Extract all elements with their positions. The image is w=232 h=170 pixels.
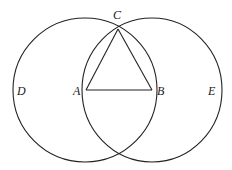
label-d: D [16,84,26,98]
label-b: B [157,84,165,98]
euclid-construction-figure: C A B D E [0,0,232,170]
segment-ac [86,29,118,90]
label-e: E [207,84,216,98]
label-c: C [113,8,122,22]
label-a: A [72,84,81,98]
